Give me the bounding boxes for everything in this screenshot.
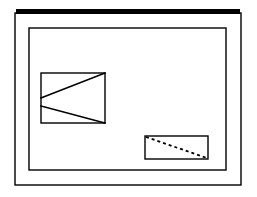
canvas-background — [0, 0, 257, 197]
line-diagram — [0, 0, 257, 197]
figure-canvas: Nested frame line diagram with inscribed… — [0, 0, 257, 197]
